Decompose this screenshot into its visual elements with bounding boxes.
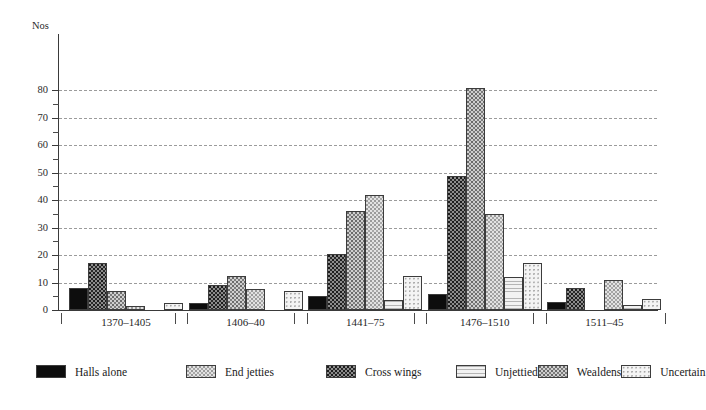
legend-swatch-icon (186, 365, 216, 378)
x-axis-group-separator (533, 313, 534, 324)
bar-group (189, 36, 303, 310)
x-axis-label-3: 1476–1510 (420, 316, 550, 328)
legend-item-end-jetties[interactable]: End jetties (186, 365, 326, 378)
bar-uncertain[interactable] (523, 263, 542, 310)
bar-end-jetties[interactable] (365, 195, 384, 310)
bar-halls-alone[interactable] (69, 288, 88, 310)
y-tick-20 (52, 255, 59, 256)
bar-wealdens[interactable] (466, 88, 485, 310)
bar-unjettied[interactable] (623, 305, 642, 310)
y-axis-tick-label: 20 (8, 250, 48, 260)
bar-cross-wings[interactable] (88, 263, 107, 310)
legend-swatch-icon (621, 365, 651, 378)
bar-halls-alone[interactable] (428, 294, 447, 310)
y-axis-tick-label: 30 (8, 223, 48, 233)
y-tick-40 (52, 200, 59, 201)
bar-end-jetties[interactable] (246, 289, 265, 310)
legend-swatch-icon (326, 365, 356, 378)
y-tick-minor-65 (53, 132, 59, 133)
y-tick-minor-55 (53, 159, 59, 160)
bar-group (69, 36, 183, 310)
x-axis-label-0: 1370–1405 (61, 316, 191, 328)
bar-end-jetties[interactable] (485, 214, 504, 310)
y-tick-30 (52, 228, 59, 229)
y-tick-minor-75 (53, 104, 59, 105)
legend-item-cross-wings[interactable]: Cross wings (326, 365, 456, 378)
bar-end-jetties[interactable] (126, 306, 145, 310)
legend-swatch-icon (36, 365, 66, 378)
bar-cross-wings[interactable] (327, 254, 346, 310)
legend-label: Unjettied (495, 366, 538, 378)
bar-wealdens[interactable] (227, 276, 246, 310)
legend-item-halls-alone[interactable]: Halls alone (36, 365, 186, 378)
y-axis-tick-label: 0 (8, 305, 48, 315)
bar-halls-alone[interactable] (308, 296, 327, 310)
legend-swatch-icon (456, 365, 486, 378)
x-axis-group-separator (414, 313, 415, 324)
bar-cross-wings[interactable] (447, 176, 466, 311)
bar-uncertain[interactable] (164, 303, 183, 310)
bar-wealdens[interactable] (107, 291, 126, 310)
x-axis-group-separator (61, 313, 62, 324)
y-axis-tick-label: 50 (8, 168, 48, 178)
bar-cross-wings[interactable] (566, 288, 585, 310)
y-tick-80 (52, 90, 59, 91)
x-axis-group-separator (294, 313, 295, 324)
y-axis-tick-label: 10 (8, 278, 48, 288)
y-tick-50 (52, 173, 59, 174)
bar-unjettied[interactable] (384, 300, 403, 310)
bar-uncertain[interactable] (284, 291, 303, 310)
legend-label: Halls alone (75, 366, 127, 378)
y-tick-minor-45 (53, 186, 59, 187)
legend-item-uncertain[interactable]: Uncertain (621, 365, 705, 378)
y-tick-minor-35 (53, 214, 59, 215)
chart-legend: Halls aloneEnd jettiesCross wingsUnjetti… (36, 361, 456, 382)
y-axis-tick-label: 40 (8, 195, 48, 205)
legend-label: Cross wings (365, 366, 422, 378)
y-axis-tick-label: 70 (8, 113, 48, 123)
legend-swatch-icon (538, 365, 568, 378)
bar-end-jetties[interactable] (604, 280, 623, 310)
legend-item-unjettied[interactable]: Unjettied (456, 365, 538, 378)
bar-wealdens[interactable] (346, 211, 365, 310)
bar-group (428, 36, 542, 310)
y-tick-60 (52, 145, 59, 146)
y-tick-0 (52, 310, 59, 311)
y-tick-10 (52, 283, 59, 284)
bar-cross-wings[interactable] (208, 285, 227, 310)
bar-uncertain[interactable] (642, 299, 661, 310)
bar-group (308, 36, 422, 310)
legend-label: End jetties (225, 366, 274, 378)
legend-label: Wealdens (577, 366, 621, 378)
x-axis-line (58, 310, 658, 311)
legend-item-wealdens[interactable]: Wealdens (538, 365, 621, 378)
x-axis-label-2: 1441–75 (300, 316, 430, 328)
y-axis-tick-label: 80 (8, 85, 48, 95)
y-tick-minor-5 (53, 296, 59, 297)
x-axis-label-4: 1511–45 (539, 316, 669, 328)
bar-halls-alone[interactable] (189, 303, 208, 310)
y-tick-minor-25 (53, 241, 59, 242)
y-tick-minor-15 (53, 269, 59, 270)
bar-uncertain[interactable] (403, 276, 422, 310)
y-tick-70 (52, 118, 59, 119)
bar-unjettied[interactable] (504, 277, 523, 310)
bar-group (547, 36, 661, 310)
x-axis-label-1: 1406–40 (181, 316, 311, 328)
bar-halls-alone[interactable] (547, 302, 566, 310)
y-axis-title: Nos (32, 20, 49, 31)
x-axis-group-separator (175, 313, 176, 324)
legend-label: Uncertain (660, 366, 705, 378)
y-axis-tick-label: 60 (8, 140, 48, 150)
